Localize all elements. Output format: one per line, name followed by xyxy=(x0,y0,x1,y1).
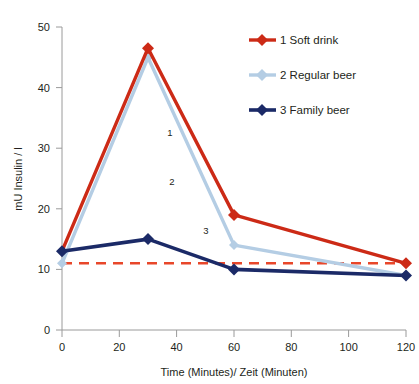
x-tick-label-100: 100 xyxy=(339,341,357,353)
legend-item-soft-drink[interactable]: 1 Soft drink xyxy=(249,34,338,46)
chart-canvas: 0 10 20 30 40 50 0 20 40 60 80 xyxy=(0,0,419,384)
y-tick-label-30: 30 xyxy=(38,142,50,154)
y-tick-label-10: 10 xyxy=(38,263,50,275)
series-2-marker-2 xyxy=(229,240,239,250)
series-1-marker-1 xyxy=(142,42,154,54)
legend-item-regular-beer[interactable]: 2 Regular beer xyxy=(249,69,356,81)
x-tick-label-40: 40 xyxy=(170,341,182,353)
series-line-regular-beer xyxy=(57,53,411,281)
y-tick-label-20: 20 xyxy=(38,203,50,215)
y-tick-label-0: 0 xyxy=(44,324,50,336)
chart-legend: 1 Soft drink 2 Regular beer 3 Family bee… xyxy=(249,34,356,116)
legend-item-family-beer[interactable]: 3 Family beer xyxy=(249,104,350,116)
series-annotation-2: 2 xyxy=(169,176,174,187)
insulin-response-line-chart: 0 10 20 30 40 50 0 20 40 60 80 xyxy=(0,0,419,384)
legend-label-1: 1 Soft drink xyxy=(280,34,338,46)
x-tick-label-80: 80 xyxy=(285,341,297,353)
series-1-marker-3 xyxy=(400,257,412,269)
legend-label-3: 3 Family beer xyxy=(280,104,350,116)
y-tick-label-40: 40 xyxy=(38,82,50,94)
x-tick-label-0: 0 xyxy=(59,341,65,353)
series-annotation-1: 1 xyxy=(167,127,172,138)
y-axis-title: mU Insulin / l xyxy=(12,147,24,211)
series-1-marker-2 xyxy=(228,209,240,221)
legend-swatch-marker-2 xyxy=(256,69,268,81)
x-tick-group: 0 20 40 60 80 100 120 xyxy=(59,330,415,353)
x-tick-label-60: 60 xyxy=(228,341,240,353)
series-annotation-3: 3 xyxy=(203,225,208,236)
series-line-soft-drink xyxy=(57,42,412,269)
x-tick-label-20: 20 xyxy=(113,341,125,353)
series-2-marker-0 xyxy=(57,258,67,268)
x-axis-title: Time (Minutes)/ Zeit (Minuten) xyxy=(161,366,308,378)
y-tick-group: 0 10 20 30 40 50 xyxy=(38,21,62,336)
series-3-marker-1 xyxy=(142,233,154,245)
series-3-marker-2 xyxy=(228,263,240,275)
legend-label-2: 2 Regular beer xyxy=(280,69,356,81)
y-tick-label-50: 50 xyxy=(38,21,50,33)
legend-swatch-marker-3 xyxy=(256,104,268,116)
legend-swatch-marker-1 xyxy=(256,34,268,46)
series-3-marker-3 xyxy=(400,270,412,282)
x-tick-label-120: 120 xyxy=(397,341,415,353)
